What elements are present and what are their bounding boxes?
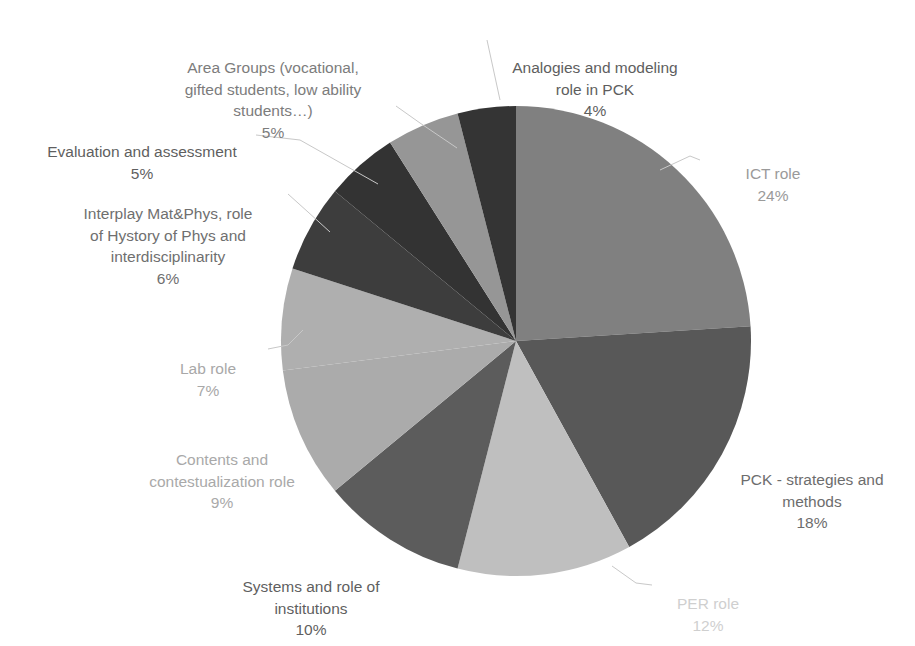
pie-label-contents-percent: 9% [122,492,322,513]
pie-label-pck-text: PCK - strategies and methods [740,471,883,509]
pie-label-analogies-percent: 4% [490,100,700,121]
pie-label-interplay-percent: 6% [48,268,288,289]
pie-label-per: PER role 12% [652,572,764,646]
leader-line-per [612,566,652,585]
pie-label-ict-percent: 24% [718,185,828,206]
pie-slice-group [281,106,751,576]
pie-label-lab: Lab role 7% [148,337,268,423]
pie-label-contents: Contents and contestualization role 9% [122,428,322,535]
pie-label-lab-percent: 7% [148,380,268,401]
pie-label-analogies: Analogies and modeling role in PCK 4% [490,36,700,143]
pie-label-per-text: PER role [677,595,739,612]
pie-label-area-groups-text: Area Groups (vocational, gifted students… [185,59,362,119]
pie-label-ict-text: ICT role [746,165,801,182]
pie-label-systems: Systems and role of institutions 10% [206,555,416,646]
pie-chart: Analogies and modeling role in PCK 4% Ar… [0,0,915,646]
pie-label-evaluation-percent: 5% [28,163,256,184]
pie-label-analogies-text: Analogies and modeling role in PCK [512,59,677,97]
pie-label-contents-text: Contents and contestualization role [149,451,295,489]
pie-label-pck-percent: 18% [722,512,902,533]
pie-label-ict: ICT role 24% [718,142,828,228]
pie-label-interplay: Interplay Mat&Phys, role of Hystory of P… [48,182,288,310]
pie-label-interplay-text: Interplay Mat&Phys, role of Hystory of P… [84,205,253,265]
pie-label-systems-text: Systems and role of institutions [243,578,380,616]
pie-label-lab-text: Lab role [180,360,236,377]
pie-label-per-percent: 12% [652,615,764,636]
pie-label-systems-percent: 10% [206,619,416,640]
pie-label-pck: PCK - strategies and methods 18% [722,448,902,555]
pie-label-evaluation-text: Evaluation and assessment [47,143,237,160]
